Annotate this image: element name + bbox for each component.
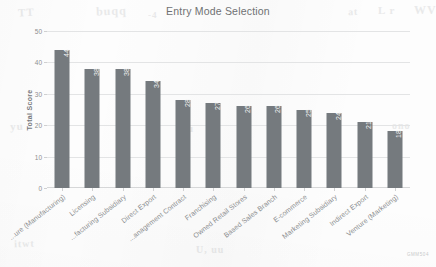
bar-slot[interactable]: 25 xyxy=(289,31,319,188)
bar[interactable]: 38 xyxy=(115,69,130,188)
x-tick-label: Owned Retail Stores xyxy=(7,193,248,267)
bleed-mark: itwt xyxy=(14,238,35,250)
x-tick-mark xyxy=(365,188,366,191)
y-tick-label: 10 xyxy=(35,153,42,160)
bar-slot[interactable]: 26 xyxy=(259,31,289,188)
bar[interactable]: 27 xyxy=(206,103,221,188)
x-tick-mark xyxy=(395,188,396,191)
x-tick-mark xyxy=(274,188,275,191)
bar[interactable]: 28 xyxy=(176,100,191,188)
bar-series: 443838342827262625242118 xyxy=(47,31,410,188)
bar-value-label: 25 xyxy=(304,108,311,116)
bar-slot[interactable]: 38 xyxy=(108,31,138,188)
x-tick-label: Licensing xyxy=(0,193,97,267)
bar[interactable]: 26 xyxy=(266,106,281,188)
bar-slot[interactable]: 27 xyxy=(198,31,228,188)
y-axis-label: Total Score xyxy=(26,89,33,130)
x-tick-label: Venture (Marketing) xyxy=(158,193,399,267)
y-tick-label: 50 xyxy=(35,28,42,35)
bar-value-label: 34 xyxy=(153,80,160,88)
y-tick-label: 40 xyxy=(35,59,42,66)
x-tick-mark xyxy=(153,188,154,191)
x-tick-label: Direct Export xyxy=(0,193,157,267)
bar-value-label: 26 xyxy=(274,105,281,113)
x-tick-mark xyxy=(304,188,305,191)
x-tick-label: ...facturing Subsidiary xyxy=(0,193,127,267)
bar-value-label: 28 xyxy=(183,99,190,107)
x-tick-mark xyxy=(123,188,124,191)
x-tick-label: E-commerce xyxy=(68,193,309,267)
x-tick-mark xyxy=(334,188,335,191)
y-tick-label: 0 xyxy=(38,185,42,192)
x-tick-label: ...anagement Contract xyxy=(0,193,187,267)
x-tick-label: Marketing Subsidiary xyxy=(98,193,339,267)
x-tick-label: Based Sales Branch xyxy=(37,193,278,267)
bar[interactable]: 21 xyxy=(357,122,372,188)
page-watermark: GMM504 xyxy=(407,252,429,257)
bar-value-label: 38 xyxy=(123,68,130,76)
x-tick-label: Franchising xyxy=(0,193,218,267)
x-tick-mark xyxy=(92,188,93,191)
bar[interactable]: 34 xyxy=(145,81,160,188)
x-tick-mark xyxy=(244,188,245,191)
bar[interactable]: 44 xyxy=(55,50,70,188)
bar-slot[interactable]: 21 xyxy=(350,31,380,188)
bar-value-label: 44 xyxy=(62,49,69,57)
bar-slot[interactable]: 24 xyxy=(319,31,349,188)
x-tick-mark xyxy=(213,188,214,191)
bar-slot[interactable]: 18 xyxy=(380,31,410,188)
chart-screenshot: TT buqq -4 at L r WV yu Uu ul ono itwt U… xyxy=(0,0,436,267)
x-tick-label: ...ure (Manufacturing) xyxy=(0,193,66,267)
plot-area: Total Score 01020304050 4438383428272626… xyxy=(47,31,410,188)
x-tick-label: Indirect Export xyxy=(128,193,369,267)
bar-value-label: 21 xyxy=(365,121,372,129)
bar-slot[interactable]: 38 xyxy=(77,31,107,188)
bar-slot[interactable]: 28 xyxy=(168,31,198,188)
bar-slot[interactable]: 44 xyxy=(47,31,77,188)
bleed-mark: yu xyxy=(10,120,24,132)
bar[interactable]: 24 xyxy=(327,113,342,188)
bar[interactable]: 25 xyxy=(297,110,312,189)
bar-value-label: 24 xyxy=(334,112,341,120)
bar[interactable]: 38 xyxy=(85,69,100,188)
bar[interactable]: 18 xyxy=(387,131,402,188)
chart-title: Entry Mode Selection xyxy=(0,5,436,17)
bleed-mark: U, uu xyxy=(196,244,224,255)
bar[interactable]: 26 xyxy=(236,106,251,188)
bar-value-label: 38 xyxy=(92,68,99,76)
bar-value-label: 26 xyxy=(244,105,251,113)
x-tick-mark xyxy=(62,188,63,191)
y-tick-mark xyxy=(44,188,47,189)
x-tick-mark xyxy=(183,188,184,191)
bar-slot[interactable]: 26 xyxy=(229,31,259,188)
bar-value-label: 18 xyxy=(395,130,402,138)
bar-slot[interactable]: 34 xyxy=(138,31,168,188)
bar-value-label: 27 xyxy=(213,102,220,110)
y-tick-label: 20 xyxy=(35,122,42,129)
y-tick-label: 30 xyxy=(35,90,42,97)
